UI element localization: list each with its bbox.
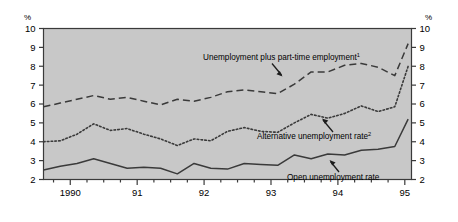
series-label-footnote: 2 — [368, 131, 371, 137]
y-tick-label-right: 5 — [420, 117, 425, 128]
series1-label: Unemployment plus part-time employment1 — [203, 52, 360, 62]
x-axis-year-label: 95 — [400, 187, 411, 198]
series-label-text: Unemployment plus part-time employment — [203, 53, 358, 62]
y-tick-label-right: 7 — [420, 80, 425, 91]
y-tick-label-right: 9 — [420, 42, 425, 53]
y-tick-label-right: 2 — [420, 174, 425, 185]
y-tick-label-left: 10 — [25, 23, 36, 34]
y-axis-unit-right: % — [425, 13, 432, 22]
chart-canvas: % % 1098765432 1098765432 19909192939495… — [0, 0, 458, 222]
series-label-text: Open unemployment rate — [287, 173, 380, 182]
x-axis-year-label: 91 — [132, 187, 143, 198]
series-label-footnote: 1 — [357, 52, 360, 58]
series-label-text: Alternative unemployment rate — [257, 132, 368, 141]
unemployment-line-chart: % % 1098765432 1098765432 19909192939495… — [0, 0, 458, 222]
y-tick-label-right: 3 — [420, 155, 425, 166]
y-tick-label-left: 5 — [30, 117, 35, 128]
y-tick-label-right: 6 — [420, 98, 425, 109]
series2-label: Alternative unemployment rate2 — [257, 131, 371, 141]
x-axis-year-label: 92 — [199, 187, 210, 198]
series3-label: Open unemployment rate — [287, 173, 380, 182]
y-tick-label-left: 6 — [30, 98, 35, 109]
y-tick-label-left: 8 — [30, 61, 35, 72]
y-tick-label-right: 4 — [420, 136, 425, 147]
y-tick-label-left: 7 — [30, 80, 35, 91]
y-tick-label-right: 10 — [420, 23, 431, 34]
x-axis-year-label: 94 — [333, 187, 344, 198]
y-tick-label-left: 9 — [30, 42, 35, 53]
y-tick-label-left: 3 — [30, 155, 35, 166]
y-tick-label-left: 2 — [30, 174, 35, 185]
x-axis-year-label: 93 — [266, 187, 277, 198]
y-tick-label-left: 4 — [30, 136, 35, 147]
y-tick-label-right: 8 — [420, 61, 425, 72]
y-axis-unit-left: % — [24, 13, 31, 22]
x-axis-year-label: 1990 — [60, 187, 81, 198]
